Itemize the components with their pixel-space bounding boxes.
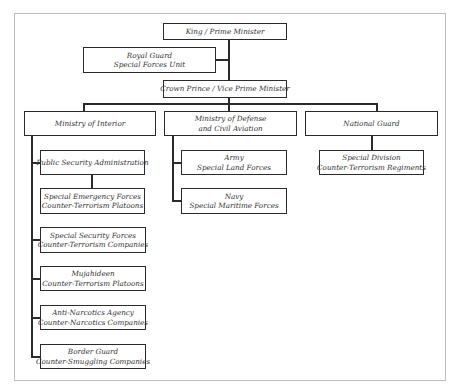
node-label: Navy: [225, 192, 244, 201]
connector-royal-guard: [215, 59, 229, 61]
node-label: Special Division: [342, 153, 400, 162]
node-label: King / Prime Minister: [186, 27, 265, 36]
node-label: Ministry of Interior: [55, 119, 125, 128]
node-label: National Guard: [343, 119, 399, 128]
node-sublabel: Special Land Forces: [197, 163, 271, 172]
connector-ministries-bar: [83, 103, 377, 105]
node-sublabel: Counter-Smuggling Companies: [36, 357, 150, 366]
node-sublabel: and Civil Aviation: [198, 124, 262, 133]
node-anti-narcotics: Anti-Narcotics Agency Counter-Narcotics …: [40, 305, 146, 330]
node-navy: Navy Special Maritime Forces: [181, 188, 287, 214]
node-special-security: Special Security Forces Counter-Terroris…: [40, 227, 146, 253]
node-label: Ministry of Defense: [195, 114, 267, 123]
node-sublabel: Counter-Terrorism Regiments: [317, 163, 426, 172]
node-king: King / Prime Minister: [163, 23, 287, 40]
node-public-security: Public Security Administration: [40, 150, 145, 175]
node-label: Royal Guard: [127, 51, 172, 60]
node-label: Anti-Narcotics Agency: [52, 308, 134, 317]
connector-national-up: [376, 103, 378, 111]
node-sublabel: Special Forces Unit: [114, 60, 185, 69]
node-label: Special Emergency Forces: [44, 192, 141, 201]
connector-interior-spine: [31, 135, 33, 357]
node-national-guard: National Guard: [305, 111, 438, 136]
node-ministry-defense: Ministry of Defense and Civil Aviation: [164, 111, 297, 136]
node-sublabel: Special Maritime Forces: [189, 201, 278, 210]
node-crown-prince: Crown Prince / Vice Prime Minister: [163, 80, 287, 98]
node-sublabel: Counter-Narcotics Companies: [38, 318, 148, 327]
node-label: Crown Prince / Vice Prime Minister: [160, 84, 290, 93]
node-label: Border Guard: [68, 347, 118, 356]
connector-interior-up: [83, 103, 85, 111]
node-royal-guard: Royal Guard Special Forces Unit: [83, 47, 216, 73]
connector-navy: [172, 200, 181, 202]
connector-army: [172, 162, 181, 164]
node-mujahideen: Mujahideen Counter-Terrorism Platoons: [40, 266, 146, 291]
node-border-guard: Border Guard Counter-Smuggling Companies: [40, 344, 146, 369]
node-special-emergency: Special Emergency Forces Counter-Terrori…: [40, 188, 145, 214]
connector-defense-spine: [172, 135, 174, 201]
node-label: Army: [224, 153, 244, 162]
node-ministry-interior: Ministry of Interior: [24, 111, 156, 136]
node-army: Army Special Land Forces: [181, 150, 287, 175]
node-sublabel: Counter-Terrorism Platoons: [42, 201, 143, 210]
node-label: Special Security Forces: [50, 231, 136, 240]
node-label: Public Security Administration: [36, 158, 148, 167]
node-sublabel: Counter-Terrorism Platoons: [42, 279, 143, 288]
node-label: Mujahideen: [71, 269, 114, 278]
connector-national-special: [371, 135, 373, 150]
node-sublabel: Counter-Terrorism Companies: [38, 240, 148, 249]
node-special-division: Special Division Counter-Terrorism Regim…: [319, 150, 424, 175]
connector-mujahideen: [31, 278, 40, 280]
connector-psa-sef: [91, 174, 93, 188]
